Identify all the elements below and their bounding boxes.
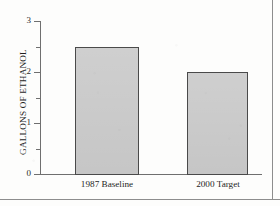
y-tick-major-2: [34, 72, 41, 73]
bar-chart: 3 2 1 0 GALLONS OF ETHANOL 1987 Baseline…: [0, 0, 280, 206]
y-tick-minor-1-5: [36, 98, 41, 99]
bar-1987-baseline: [75, 47, 139, 175]
chart-page: 3 2 1 0 GALLONS OF ETHANOL 1987 Baseline…: [0, 0, 280, 206]
y-tick-major-1: [34, 123, 41, 124]
y-tick-major-3: [34, 21, 41, 22]
bar-2000-target: [187, 72, 248, 175]
y-axis-title: GALLONS OF ETHANOL: [18, 32, 28, 172]
y-tick-label-3: 3: [17, 16, 31, 25]
y-tick-major-0: [34, 174, 41, 175]
x-category-label-2000-target: 2000 Target: [180, 179, 256, 190]
x-category-label-1987-baseline: 1987 Baseline: [67, 179, 147, 190]
page-frame-bottom-rule: [0, 199, 280, 200]
page-frame-right-rule: [272, 0, 273, 199]
y-tick-minor-2-5: [36, 47, 41, 48]
y-tick-minor-0-5: [36, 149, 41, 150]
